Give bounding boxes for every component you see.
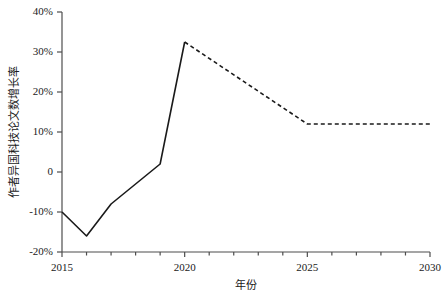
y-axis-label: 作者异国科技论文数增长率: [9, 66, 20, 198]
x-axis-label: 年份: [186, 280, 306, 291]
x-tick-label: 2030: [405, 262, 446, 273]
series-line-1: [185, 42, 430, 124]
data-series: [62, 42, 430, 236]
y-tick-label: -20%: [29, 246, 53, 257]
tick-marks: [57, 12, 430, 257]
axes: [62, 12, 430, 252]
y-tick-label: 0: [48, 166, 54, 177]
x-tick-label: 2025: [282, 262, 332, 273]
y-tick-label: 30%: [33, 46, 53, 57]
y-tick-label: 20%: [33, 86, 53, 97]
x-tick-label: 2015: [37, 262, 87, 273]
x-tick-label: 2020: [160, 262, 210, 273]
y-tick-label: 10%: [33, 126, 53, 137]
y-tick-label: -10%: [29, 206, 53, 217]
y-tick-label: 40%: [33, 6, 53, 17]
series-line-0: [62, 42, 185, 236]
